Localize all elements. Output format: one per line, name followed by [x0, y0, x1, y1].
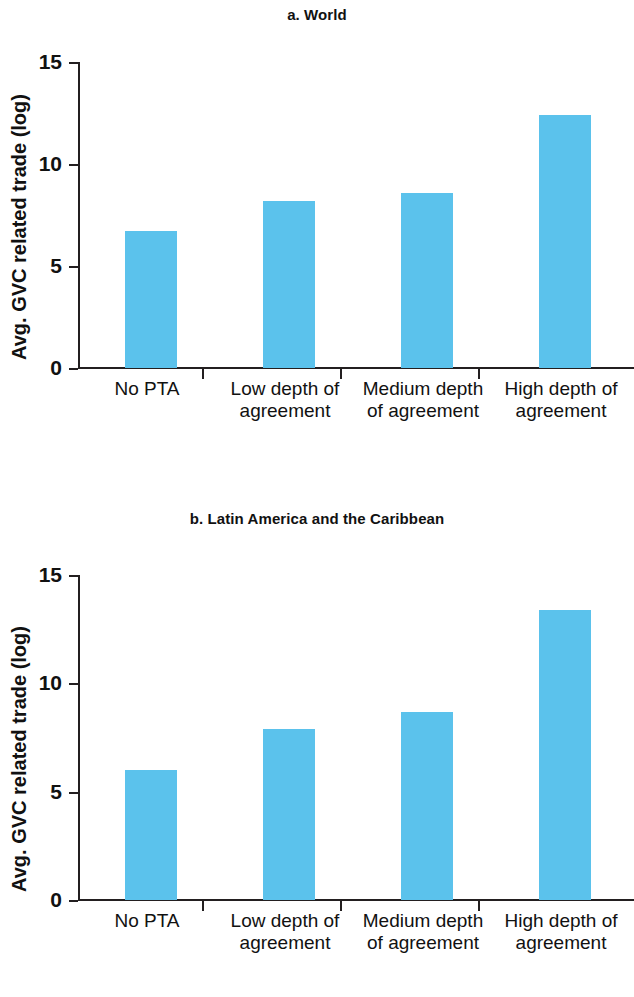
panel-b-y-axis-line: [78, 575, 80, 900]
panel-b-xlabel-1: Low depth of agreement: [216, 910, 354, 955]
panel-b-ytick-5: 5: [69, 792, 78, 794]
figure-bar-charts: a. World Avg. GVC related trade (log) 0 …: [0, 0, 634, 997]
panel-b-bar-high-depth: [539, 610, 591, 900]
panel-b-y-axis-label: Avg. GVC related trade (log): [8, 626, 31, 892]
panel-a-title: a. World: [0, 6, 634, 23]
panel-a-bar-no-pta: [125, 231, 177, 368]
panel-b-title: b. Latin America and the Caribbean: [0, 510, 634, 527]
chart-panel-latin-america-caribbean: b. Latin America and the Caribbean Avg. …: [0, 500, 634, 997]
panel-b-plot-area: 0 5 10 15: [78, 575, 634, 900]
panel-a-xlabel-0: No PTA: [78, 378, 216, 400]
panel-b-ytick-0: 0: [69, 900, 78, 902]
panel-b-ytick-label-0: 0: [50, 888, 62, 912]
panel-b-ytick-15: 15: [69, 575, 78, 577]
panel-a-xlabel-2: Medium depth of agreement: [354, 378, 492, 423]
panel-a-ytick-label-0: 0: [50, 356, 62, 380]
panel-b-ytick-label-5: 5: [50, 780, 62, 804]
panel-b-xlabel-3: High depth of agreement: [492, 910, 630, 955]
panel-a-ytick-5: 5: [69, 266, 78, 268]
panel-b-bar-medium-depth: [401, 712, 453, 901]
panel-a-xlabel-1: Low depth of agreement: [216, 378, 354, 423]
panel-a-ytick-15: 15: [69, 62, 78, 64]
panel-b-ytick-label-10: 10: [39, 671, 62, 695]
panel-a-ytick-label-15: 15: [39, 50, 62, 74]
panel-a-y-axis-label: Avg. GVC related trade (log): [8, 94, 31, 360]
panel-b-bar-no-pta: [125, 770, 177, 900]
panel-a-ytick-10: 10: [69, 164, 78, 166]
panel-a-xlabel-3: High depth of agreement: [492, 378, 630, 423]
panel-a-ytick-label-10: 10: [39, 152, 62, 176]
panel-a-bar-medium-depth: [401, 193, 453, 368]
panel-a-y-axis-line: [78, 62, 80, 368]
panel-b-xlabel-0: No PTA: [78, 910, 216, 932]
panel-a-plot-area: 0 5 10 15: [78, 62, 634, 368]
panel-b-bar-low-depth: [263, 729, 315, 900]
chart-panel-world: a. World Avg. GVC related trade (log) 0 …: [0, 0, 634, 500]
panel-b-ytick-label-15: 15: [39, 563, 62, 587]
panel-a-bar-high-depth: [539, 115, 591, 368]
panel-a-ytick-label-5: 5: [50, 254, 62, 278]
panel-b-ytick-10: 10: [69, 683, 78, 685]
panel-a-bar-low-depth: [263, 201, 315, 368]
panel-b-xlabel-2: Medium depth of agreement: [354, 910, 492, 955]
panel-a-ytick-0: 0: [69, 368, 78, 370]
